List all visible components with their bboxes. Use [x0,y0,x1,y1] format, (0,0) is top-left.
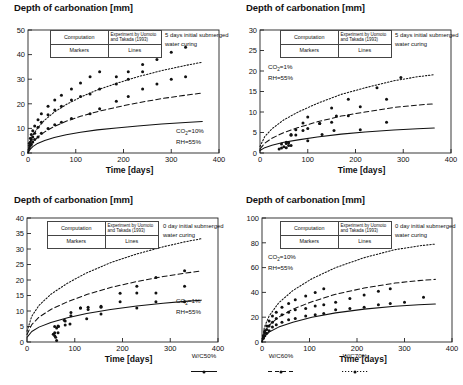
series-legend-item-w-c60-: W/C60% [249,352,313,377]
legend-table: Computation Experiment by Uomoto and Tak… [280,221,392,249]
condition-labels: CO2=1%RH=55% [176,296,201,317]
series-legend-label: W/C70% [323,352,387,359]
svg-text:0: 0 [26,155,30,164]
legend-row-style: Markers Lines [48,236,158,249]
svg-text:5: 5 [20,322,24,331]
panel-top-right: Depth of carbonation [mm] 01002003004000… [232,0,463,193]
series-legend-marker-sample [172,368,236,377]
series-legend-line-sample [323,361,387,368]
svg-text:30: 30 [17,75,25,84]
svg-text:20: 20 [249,67,257,76]
legend-cell-experiment: Experiment by Uomoto and Takada (1993) [339,222,391,235]
svg-text:40: 40 [16,214,24,223]
legend-cell-experiment: Experiment by Uomoto and Takada (1993) [339,31,391,44]
svg-text:0: 0 [21,149,25,158]
series-legend-item-w-c50-: W/C50% [172,352,236,377]
legend-cell-markers: Markers [281,236,339,249]
plot-area-top-left: 010020030040001020304050Time [days] [0,0,231,193]
svg-text:100: 100 [246,214,259,223]
svg-text:15: 15 [249,87,257,96]
carbonation-figure: Depth of carbonation [mm] 01002003004000… [0,0,463,385]
curing-note: 0 day initial submergedwater curing [163,222,224,240]
legend-table: Computation Experiment by Uomoto and Tak… [280,30,392,58]
series-legend-marker-sample [249,368,313,377]
legend-cell-computation: Computation [48,222,106,235]
svg-text:200: 200 [349,155,362,164]
svg-text:20: 20 [251,313,259,322]
legend-table: Computation Experiment by Uomoto and Tak… [47,221,159,249]
svg-text:10: 10 [17,124,25,133]
svg-text:25: 25 [16,260,24,269]
svg-text:50: 50 [17,26,25,35]
legend-table: Computation Experiment by Uomoto and Tak… [50,30,162,58]
legend-row-header: Computation Experiment by Uomoto and Tak… [281,222,391,236]
legend-cell-lines: Lines [106,236,158,249]
panel-top-left: Depth of carbonation [mm] 01002003004000… [0,0,231,193]
legend-cell-lines: Lines [109,45,161,58]
legend-row-header: Computation Experiment by Uomoto and Tak… [48,222,158,236]
legend-cell-experiment: Experiment by Uomoto and Takada (1993) [109,31,161,44]
svg-text:0: 0 [20,338,24,347]
legend-cell-experiment: Experiment by Uomoto and Takada (1993) [106,222,158,235]
legend-cell-markers: Markers [51,45,109,58]
svg-text:Time [days]: Time [days] [106,165,154,175]
condition-labels: CO2=10%RH=55% [176,126,204,147]
svg-text:30: 30 [249,26,257,35]
svg-text:300: 300 [165,155,178,164]
svg-text:0: 0 [258,155,262,164]
series-legend-label: W/C60% [249,352,313,359]
svg-text:20: 20 [16,276,24,285]
condition-labels: CO2=1%RH=55% [268,62,293,83]
legend-row-header: Computation Experiment by Uomoto and Tak… [51,31,161,45]
svg-text:40: 40 [17,50,25,59]
svg-text:10: 10 [16,307,24,316]
svg-text:30: 30 [16,245,24,254]
svg-text:100: 100 [69,155,82,164]
svg-text:400: 400 [213,155,226,164]
svg-text:25: 25 [249,46,257,55]
legend-cell-markers: Markers [281,45,339,58]
svg-text:35: 35 [16,229,24,238]
legend-row-header: Computation Experiment by Uomoto and Tak… [281,31,391,45]
svg-text:15: 15 [16,291,24,300]
legend-cell-computation: Computation [281,222,339,235]
curing-note: 0 day initial submergedwater curing [395,222,456,240]
plot-area-top-right: 0100200300400051015202530Time [days] [232,0,463,193]
svg-text:20: 20 [17,100,25,109]
svg-text:Time [days]: Time [days] [338,165,386,175]
svg-text:200: 200 [117,155,130,164]
series-legend-label: W/C50% [172,352,236,359]
legend-row-style: Markers Lines [281,236,391,249]
legend-cell-lines: Lines [339,236,391,249]
series-legend-line-sample [249,361,313,368]
svg-text:40: 40 [251,288,259,297]
svg-text:5: 5 [253,128,257,137]
series-legend: W/C50%W/C60%W/C70% [0,352,463,385]
svg-text:10: 10 [249,108,257,117]
legend-cell-markers: Markers [48,236,106,249]
legend-row-style: Markers Lines [281,45,391,58]
condition-labels: CO2=10%RH=55% [268,252,296,273]
legend-cell-computation: Computation [51,31,109,44]
svg-text:80: 80 [251,239,259,248]
svg-text:0: 0 [255,338,259,347]
curing-note: 5 days initial submergedwater curing [165,31,229,49]
series-legend-marker-sample [323,368,387,377]
legend-cell-computation: Computation [281,31,339,44]
svg-text:300: 300 [397,155,410,164]
legend-row-style: Markers Lines [51,45,161,58]
svg-text:400: 400 [445,155,458,164]
series-legend-line-sample [172,361,236,368]
curing-note: 5 days initial submergedwater curing [395,31,459,49]
svg-text:100: 100 [301,155,314,164]
svg-text:0: 0 [253,149,257,158]
svg-text:60: 60 [251,263,259,272]
series-legend-item-w-c70-: W/C70% [323,352,387,377]
legend-cell-lines: Lines [339,45,391,58]
